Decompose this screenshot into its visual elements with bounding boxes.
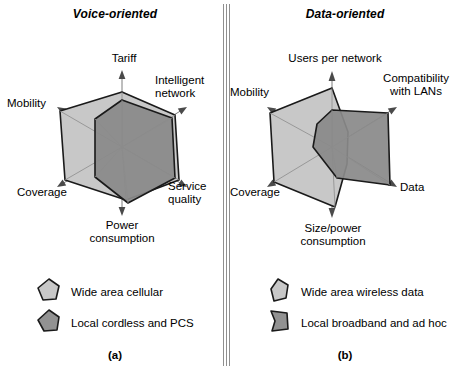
axis-label-tariff: Tariff: [92, 52, 156, 65]
axis-label-power-consumption: Power consumption: [67, 219, 177, 245]
panel-caption-a: (a): [0, 349, 230, 361]
panel-caption-b: (b): [230, 349, 460, 361]
axis-label-mobility-b: Mobility: [230, 86, 292, 99]
legend-label-local-cordless-pcs: Local cordless and PCS: [71, 317, 194, 329]
figure-root: Voice-oriented: [0, 0, 461, 370]
axis-label-coverage: Coverage: [17, 186, 87, 199]
axis-label-service-quality: Service quality: [168, 180, 230, 206]
radar-chart-data-oriented: [230, 0, 461, 250]
legend-swatch-light-b: [266, 277, 292, 307]
legend-item-wide-area-cellular: Wide area cellular: [36, 277, 163, 307]
panel-voice-oriented: Voice-oriented: [0, 0, 230, 370]
legend-swatch-dark: [36, 308, 62, 338]
radar-chart-voice-oriented: [0, 0, 230, 250]
legend-item-local-broadband-ad-hoc: Local broadband and ad hoc: [266, 308, 447, 338]
legend-label-wide-area-cellular: Wide area cellular: [71, 286, 163, 298]
panel-data-oriented: Data-oriented: [230, 0, 460, 370]
legend-label-wide-area-wireless-data: Wide area wireless data: [301, 286, 424, 298]
axis-label-coverage-b: Coverage: [230, 186, 300, 199]
axis-label-intelligent-network: Intelligent network: [155, 74, 233, 100]
axis-label-users-per-network: Users per network: [270, 52, 400, 65]
legend-label-local-broadband-ad-hoc: Local broadband and ad hoc: [301, 317, 447, 329]
axis-label-mobility: Mobility: [7, 97, 67, 110]
axis-label-data: Data: [400, 181, 452, 194]
axis-label-size-power-consumption: Size/power consumption: [274, 222, 392, 248]
legend-item-local-cordless-pcs: Local cordless and PCS: [36, 308, 194, 338]
legend-swatch-light: [36, 277, 62, 307]
legend-item-wide-area-wireless-data: Wide area wireless data: [266, 277, 424, 307]
axis-label-compatibility-with-lans: Compatibility with LANs: [370, 72, 461, 98]
legend-swatch-dark-b: [266, 308, 292, 338]
